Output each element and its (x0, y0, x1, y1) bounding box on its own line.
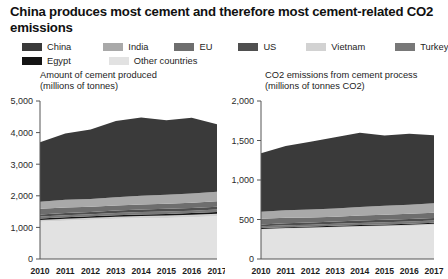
legend-item-us[interactable]: US (238, 40, 276, 53)
y-tick-label: 4,000 (10, 128, 33, 138)
area-series-other (261, 225, 434, 259)
y-tick-label: 1,000 (231, 175, 254, 185)
y-tick-label: 0 (249, 254, 254, 264)
legend-item-china[interactable]: China (22, 40, 71, 53)
chart-title-co2: CO2 emissions from cement process (milli… (265, 70, 444, 93)
x-tick-label: 2013 (106, 266, 125, 276)
chart-plot-co2: 05001,0001,5002,000201020112012201320142… (225, 95, 444, 279)
legend-swatch-eu-icon (174, 43, 194, 51)
legend-swatch-vietnam-icon (306, 43, 326, 51)
x-tick-label: 2015 (157, 266, 176, 276)
y-tick-label: 3,000 (10, 160, 33, 170)
legend-item-egypt[interactable]: Egypt (22, 54, 71, 67)
legend-item-turkey[interactable]: Turkey (395, 40, 448, 53)
legend-label-us: US (263, 42, 276, 52)
legend-item-india[interactable]: India (103, 40, 148, 53)
legend-swatch-other-icon (109, 57, 129, 65)
x-tick-label: 2016 (400, 266, 419, 276)
x-tick-label: 2017 (424, 266, 443, 276)
chart-cement-production: Amount of cement produced (millions of t… (0, 70, 225, 279)
x-tick-label: 2012 (301, 266, 320, 276)
area-chart-cement-co2: 05001,0001,5002,000201020112012201320142… (225, 95, 444, 279)
legend-swatch-india-icon (103, 43, 123, 51)
area-chart-cement-production: 01,0002,0003,0004,0005,00020102011201220… (0, 95, 225, 279)
legend-label-vietnam: Vietnam (331, 42, 365, 52)
chart-plot-production: 01,0002,0003,0004,0005,00020102011201220… (0, 95, 225, 279)
x-tick-label: 2010 (251, 266, 270, 276)
x-tick-label: 2017 (207, 266, 225, 276)
chart-legend: ChinaIndiaEUUSVietnamTurkey EgyptOther c… (0, 35, 442, 67)
legend-swatch-turkey-icon (395, 43, 415, 51)
charts-container: Amount of cement produced (millions of t… (0, 70, 444, 279)
legend-item-other[interactable]: Other countries (109, 54, 198, 67)
legend-swatch-us-icon (238, 43, 258, 51)
x-tick-label: 2011 (276, 266, 295, 276)
y-tick-label: 1,000 (10, 223, 33, 233)
legend-item-vietnam[interactable]: Vietnam (306, 40, 365, 53)
legend-row-1: ChinaIndiaEUUSVietnamTurkey (22, 40, 442, 53)
legend-label-eu: EU (199, 42, 212, 52)
x-tick-label: 2012 (81, 266, 100, 276)
legend-label-india: India (128, 42, 148, 52)
y-tick-label: 1,500 (231, 136, 254, 146)
chart-title-production: Amount of cement produced (millions of t… (40, 70, 225, 93)
area-series-other (40, 216, 217, 259)
legend-item-eu[interactable]: EU (174, 40, 212, 53)
y-tick-label: 2,000 (231, 96, 254, 106)
y-tick-label: 5,000 (10, 96, 33, 106)
y-tick-label: 0 (28, 254, 33, 264)
chart-cement-co2: CO2 emissions from cement process (milli… (225, 70, 444, 279)
x-tick-label: 2011 (56, 266, 75, 276)
x-tick-label: 2010 (30, 266, 49, 276)
legend-label-turkey: Turkey (420, 42, 448, 52)
x-tick-label: 2014 (350, 266, 369, 276)
x-tick-label: 2016 (182, 266, 201, 276)
legend-label-china: China (47, 42, 71, 52)
legend-row-2: EgyptOther countries (22, 54, 442, 67)
legend-label-other: Other countries (134, 56, 198, 66)
legend-swatch-china-icon (22, 43, 42, 51)
legend-swatch-egypt-icon (22, 57, 42, 65)
y-tick-label: 2,000 (10, 191, 33, 201)
legend-label-egypt: Egypt (47, 56, 71, 66)
y-tick-label: 500 (239, 215, 254, 225)
page-title: China produces most cement and therefore… (0, 0, 444, 35)
x-tick-label: 2014 (132, 266, 151, 276)
x-tick-label: 2015 (375, 266, 394, 276)
x-tick-label: 2013 (326, 266, 345, 276)
